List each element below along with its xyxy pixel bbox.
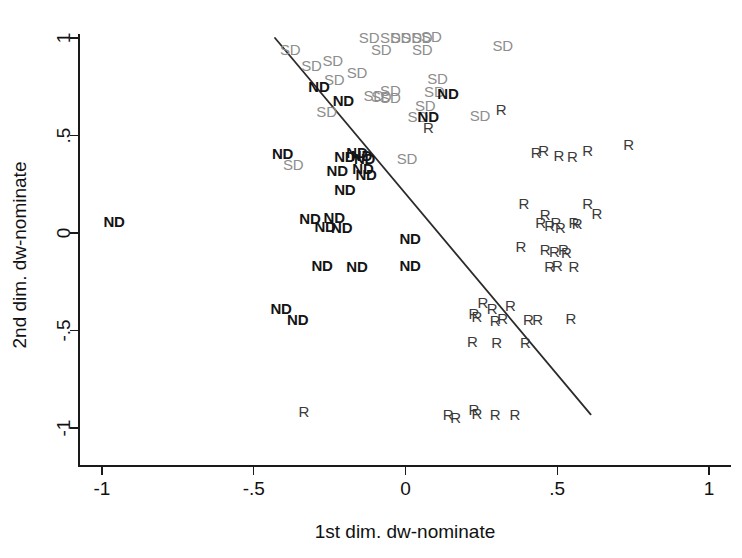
x-axis-tick-label: 0	[400, 478, 411, 499]
data-point-sd: SD	[301, 58, 321, 73]
data-point-r: R	[555, 220, 566, 235]
data-point-r: R	[491, 335, 502, 350]
data-point-r: R	[516, 238, 527, 253]
y-axis-tick-label: .5	[53, 128, 74, 144]
y-axis-tick-label: 0	[53, 228, 74, 239]
data-point-r: R	[519, 195, 530, 210]
data-point-nd: ND	[437, 85, 458, 100]
data-point-sd: SD	[470, 108, 490, 123]
data-point-r: R	[569, 259, 580, 274]
data-point-r: R	[450, 410, 461, 425]
data-point-r: R	[582, 143, 593, 158]
data-point-r: R	[623, 137, 634, 152]
data-point-sd: SD	[371, 41, 391, 56]
data-point-r: R	[471, 308, 482, 323]
scatter-plot-figure: -1-.50.51-1-.50.51 1st dim. dw-nominate …	[0, 0, 742, 558]
data-point-nd: ND	[355, 166, 376, 181]
y-axis-tick-label: -.5	[53, 319, 74, 341]
data-point-r: R	[553, 148, 564, 163]
data-point-r: R	[566, 310, 577, 325]
data-point-r: R	[471, 406, 482, 421]
data-point-nd: ND	[311, 258, 332, 273]
data-point-r: R	[538, 143, 549, 158]
data-point-sd: SD	[347, 65, 367, 80]
plot-canvas: -1-.50.51-1-.50.51 1st dim. dw-nominate …	[0, 0, 742, 558]
data-point-sd: SD	[280, 41, 300, 56]
x-axis-tick-label: 1	[704, 478, 715, 499]
data-point-r: R	[423, 119, 434, 134]
x-axis-tick-label: -.5	[243, 478, 265, 499]
data-point-r: R	[572, 216, 583, 231]
data-point-sd: SD	[397, 150, 417, 165]
data-point-nd: ND	[103, 214, 124, 229]
data-point-nd: ND	[334, 182, 355, 197]
x-axis-tick-label: -1	[94, 478, 111, 499]
data-point-r: R	[567, 148, 578, 163]
data-point-r: R	[532, 311, 543, 326]
data-point-r: R	[467, 334, 478, 349]
data-point-sd: SD	[283, 156, 303, 171]
data-point-r: R	[490, 407, 501, 422]
y-axis-tick-label: -1	[53, 420, 74, 437]
data-point-r: R	[582, 195, 593, 210]
x-axis-title: 1st dim. dw-nominate	[315, 521, 496, 542]
data-point-sd: SD	[322, 53, 342, 68]
y-axis-tick-label: 1	[53, 33, 74, 44]
data-point-nd: ND	[346, 259, 367, 274]
data-point-nd: ND	[399, 230, 420, 245]
data-point-r: R	[558, 241, 569, 256]
data-point-r: R	[520, 335, 531, 350]
x-axis-tick-label: .5	[549, 478, 565, 499]
data-point-r: R	[497, 310, 508, 325]
data-point-sd: SD	[412, 41, 432, 56]
data-point-nd: ND	[287, 311, 308, 326]
data-point-r: R	[552, 258, 563, 273]
data-point-nd: ND	[399, 258, 420, 273]
data-point-r: R	[496, 102, 507, 117]
data-point-sd: SD	[380, 89, 400, 104]
data-point-nd: ND	[331, 220, 352, 235]
data-point-r: R	[509, 407, 520, 422]
data-point-nd: ND	[308, 78, 329, 93]
data-point-sd: SD	[492, 37, 512, 52]
data-point-r: R	[298, 404, 309, 419]
y-axis-title: 2nd dim. dw-nominate	[9, 162, 30, 349]
data-point-nd: ND	[327, 162, 348, 177]
data-point-sd: SD	[316, 104, 336, 119]
